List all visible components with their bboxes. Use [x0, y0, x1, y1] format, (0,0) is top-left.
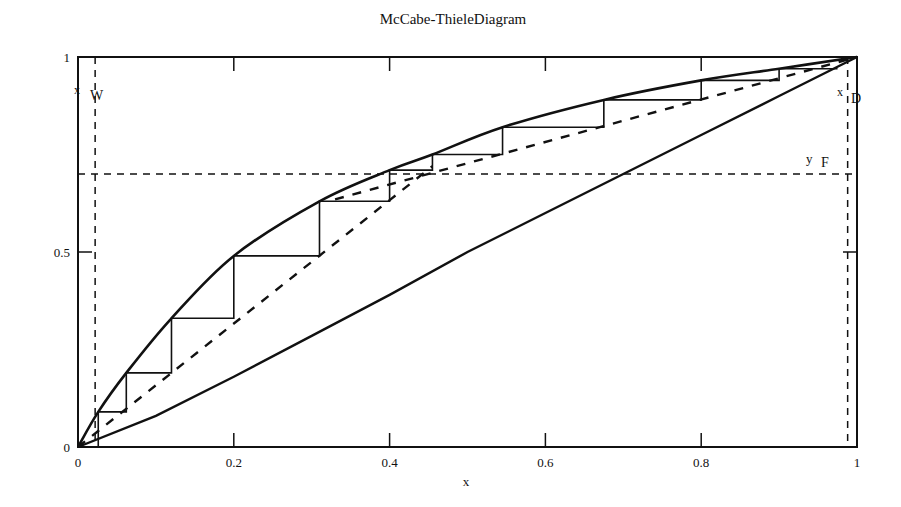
x-tick-label: 1 [854, 455, 861, 470]
x-tick-label: 0.4 [381, 455, 398, 470]
yf-label-main: y [806, 151, 813, 166]
chart-title: McCabe-ThieleDiagram [380, 11, 527, 27]
x-tick-label: 0.8 [693, 455, 709, 470]
y-tick-label: 0.5 [54, 245, 70, 260]
x-tick-label: 0 [75, 455, 82, 470]
yf-annotation: y F [806, 151, 829, 170]
mccabe-thiele-chart: McCabe-ThieleDiagram 00.20.40.60.8100.51… [0, 0, 901, 507]
x-tick-label: 0.2 [226, 455, 242, 470]
yf-label-sub: F [821, 155, 829, 170]
x-axis-label: x [463, 474, 470, 489]
xw-label-main: x [74, 83, 80, 97]
xd-label-main: x [837, 85, 843, 99]
x-tick-label: 0.6 [537, 455, 554, 470]
stripping-operating-line [78, 166, 432, 447]
y-tick-label: 0 [64, 440, 71, 455]
plot-area: 00.20.40.60.8100.51 [54, 50, 861, 470]
xd-label-sub: D [851, 91, 861, 106]
xw-label-sub: W [90, 88, 104, 103]
diagonal-line [78, 57, 857, 447]
y-tick-label: 1 [64, 50, 71, 65]
